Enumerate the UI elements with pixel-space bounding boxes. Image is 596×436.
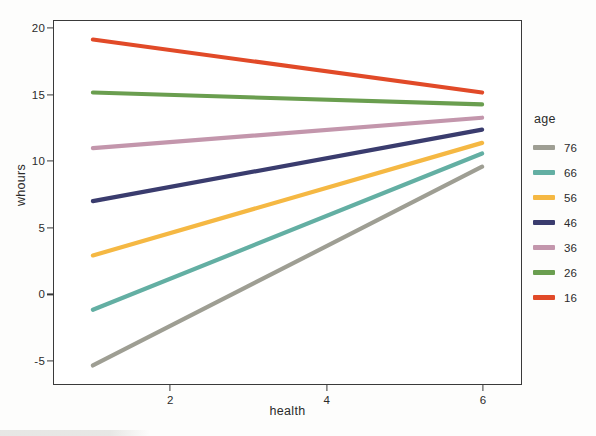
- legend-item-66[interactable]: 66: [533, 160, 593, 185]
- plot-lines: [54, 21, 521, 384]
- y-tick-label: 0: [38, 288, 45, 300]
- legend-item-26[interactable]: 26: [533, 260, 593, 285]
- legend-swatch-icon: [533, 295, 555, 300]
- line-series-76: [93, 167, 482, 366]
- plot-panel: [53, 20, 522, 385]
- y-tick-label: 10: [32, 155, 45, 167]
- legend-item-36[interactable]: 36: [533, 235, 593, 260]
- y-axis-title: whours: [14, 140, 28, 230]
- legend-item-label: 76: [564, 142, 577, 154]
- legend-swatch-icon: [533, 270, 555, 275]
- legend-swatch-icon: [533, 195, 555, 200]
- line-series-46: [93, 130, 482, 202]
- legend-swatch-icon: [533, 245, 555, 250]
- legend-item-label: 66: [564, 167, 577, 179]
- legend-items: 76665646362616: [533, 135, 593, 310]
- x-tick-mark: [326, 385, 327, 391]
- line-series-16: [93, 40, 482, 93]
- chart-figure: 20151050-5 whours 246 health age 7666564…: [0, 0, 596, 436]
- legend-item-76[interactable]: 76: [533, 135, 593, 160]
- legend-item-label: 56: [564, 192, 577, 204]
- line-series-66: [93, 153, 482, 309]
- legend-item-56[interactable]: 56: [533, 185, 593, 210]
- legend-swatch-icon: [533, 170, 555, 175]
- y-tick-label: -5: [34, 355, 45, 367]
- legend-item-label: 16: [564, 292, 577, 304]
- x-tick-mark: [482, 385, 483, 391]
- legend-item-label: 36: [564, 242, 577, 254]
- legend-swatch-icon: [533, 145, 555, 150]
- scan-artifact: [0, 430, 596, 436]
- x-axis-title: health: [53, 404, 522, 418]
- y-tick-label: 20: [32, 22, 45, 34]
- legend-item-label: 26: [564, 267, 577, 279]
- legend-title: age: [534, 112, 593, 126]
- line-series-36: [93, 118, 482, 148]
- legend-item-label: 46: [564, 217, 577, 229]
- y-tick-label: 15: [32, 89, 45, 101]
- line-series-26: [93, 93, 482, 105]
- legend-swatch-icon: [533, 220, 555, 225]
- x-tick-mark: [170, 385, 171, 391]
- legend-item-46[interactable]: 46: [533, 210, 593, 235]
- line-series-56: [93, 143, 482, 256]
- legend: age 76665646362616: [533, 112, 593, 310]
- legend-item-16[interactable]: 16: [533, 285, 593, 310]
- y-tick-label: 5: [38, 222, 45, 234]
